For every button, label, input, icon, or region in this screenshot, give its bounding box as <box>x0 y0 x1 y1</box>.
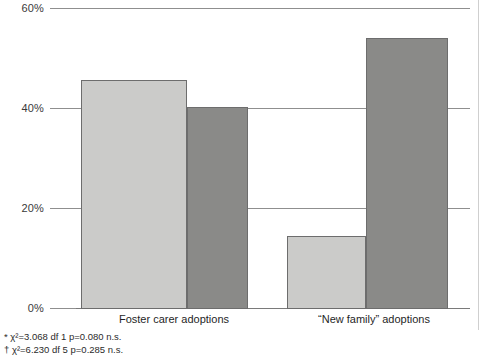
tick-mark-40 <box>50 108 76 109</box>
tick-mark-0 <box>50 308 76 309</box>
y-axis-label-60: 60% <box>0 2 44 14</box>
tick-mark-20 <box>50 208 76 209</box>
bar-new-family-dark <box>366 38 448 309</box>
gridline-60 <box>76 8 470 9</box>
bar-new-family-light <box>287 236 366 309</box>
plot-right-border <box>478 0 479 330</box>
bar-foster-carer-light <box>81 80 187 309</box>
x-axis-label-foster-carer: Foster carer adoptions <box>104 313 244 325</box>
bar-chart: 60% 40% 20% 0% Foster carer adoptions “N… <box>0 0 485 363</box>
footnote-line-1: * χ²=3.068 df 1 p=0.080 n.s. <box>4 330 304 343</box>
y-axis-label-20: 20% <box>0 202 44 214</box>
plot-area: 60% 40% 20% 0% <box>0 0 485 363</box>
bar-foster-carer-dark <box>187 107 248 309</box>
footnote-line-2: † χ²=6.230 df 5 p=0.285 n.s. <box>4 343 304 356</box>
x-axis-label-new-family: “New family” adoptions <box>296 313 452 325</box>
tick-mark-60 <box>50 8 76 9</box>
y-axis-label-40: 40% <box>0 102 44 114</box>
y-axis-label-0: 0% <box>0 302 44 314</box>
footnotes: * χ²=3.068 df 1 p=0.080 n.s. † χ²=6.230 … <box>4 330 304 356</box>
